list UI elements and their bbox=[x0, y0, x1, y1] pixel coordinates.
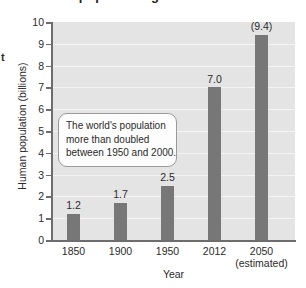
bar-1850 bbox=[67, 214, 80, 240]
y-tick-label-9: 9 bbox=[4, 38, 44, 50]
bar-value-2012: 7.0 bbox=[187, 73, 243, 85]
y-tick-label-8: 8 bbox=[4, 60, 44, 72]
y-tick-label-2: 2 bbox=[4, 190, 44, 202]
y-tick bbox=[46, 196, 52, 198]
bar-value-2050: (9.4) bbox=[234, 20, 290, 32]
x-axis-line bbox=[51, 240, 296, 242]
bar-1950 bbox=[161, 186, 174, 241]
y-tick bbox=[46, 175, 52, 177]
y-tick bbox=[46, 66, 52, 68]
y-tick-label-1: 1 bbox=[4, 212, 44, 224]
x-tick-label-2050: 2050 (estimated) bbox=[230, 245, 294, 269]
y-tick bbox=[46, 153, 52, 155]
annotation-callout: The world's population more than doubled… bbox=[58, 113, 177, 167]
annotation-line-2: more than doubled bbox=[66, 133, 169, 147]
y-tick-label-3: 3 bbox=[4, 169, 44, 181]
y-tick bbox=[46, 131, 52, 133]
x-axis-title: Year bbox=[52, 268, 295, 280]
x-tick-label-text: 1900 bbox=[109, 245, 132, 257]
x-tick-label-text: 1850 bbox=[62, 245, 85, 257]
bar-value-1900: 1.7 bbox=[93, 188, 149, 200]
annotation-line-1: The world's population bbox=[66, 119, 169, 133]
bar-2012 bbox=[208, 87, 221, 240]
y-tick-label-4: 4 bbox=[4, 147, 44, 159]
y-tick-label-0: 0 bbox=[4, 234, 44, 246]
bar-2050 bbox=[255, 35, 268, 240]
y-tick-label-6: 6 bbox=[4, 103, 44, 115]
y-tick bbox=[46, 218, 52, 220]
chart-title: Human population growth over time bbox=[30, 0, 300, 3]
y-tick-label-10: 10 bbox=[4, 16, 44, 28]
x-tick-label-text: 2012 bbox=[203, 245, 226, 257]
y-tick bbox=[46, 109, 52, 111]
bar-value-1850: 1.2 bbox=[46, 199, 102, 211]
population-bar-chart: Human population growth over time t Huma… bbox=[0, 0, 306, 288]
y-tick bbox=[46, 240, 52, 242]
y-tick bbox=[46, 87, 52, 89]
bar-value-1950: 2.5 bbox=[140, 171, 196, 183]
y-tick bbox=[46, 44, 52, 46]
x-tick-label-text: 2050 bbox=[250, 245, 273, 257]
bar-1900 bbox=[114, 203, 127, 240]
y-tick bbox=[46, 22, 52, 24]
x-tick-label-text: 1950 bbox=[156, 245, 179, 257]
y-tick-label-5: 5 bbox=[4, 125, 44, 137]
annotation-line-3: between 1950 and 2000. bbox=[66, 146, 169, 160]
y-tick-label-7: 7 bbox=[4, 81, 44, 93]
